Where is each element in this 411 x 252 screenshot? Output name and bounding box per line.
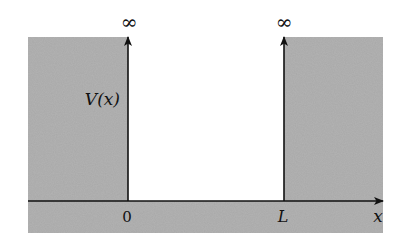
- potential-label: V(x): [85, 89, 120, 109]
- left-wall-region: [28, 37, 128, 202]
- infinite-square-well-diagram: ∞ ∞ V(x) 0 L x: [0, 0, 411, 252]
- well-width-label: L: [277, 207, 289, 226]
- below-axis-region: [28, 201, 383, 233]
- potential-walls: [28, 37, 383, 233]
- right-wall-region: [284, 37, 383, 202]
- origin-label: 0: [122, 208, 132, 226]
- x-axis-label: x: [373, 206, 383, 226]
- right-infinity-label: ∞: [276, 10, 293, 34]
- left-infinity-label: ∞: [121, 10, 138, 34]
